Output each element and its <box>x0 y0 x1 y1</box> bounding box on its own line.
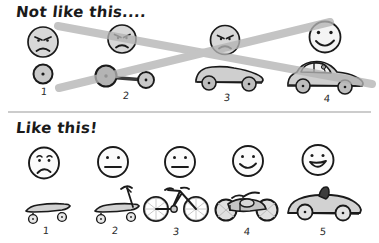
step-number-top-4: 4 <box>315 93 340 104</box>
mvp-illustration: Not like this.... Like this! <box>0 0 379 243</box>
angry-face-icon <box>28 27 58 57</box>
drawing-canvas <box>0 0 379 243</box>
vehicle-single-wheel <box>34 65 53 84</box>
neutral-face-icon <box>165 147 195 177</box>
step-number-top-3: 3 <box>215 92 240 103</box>
step-number-bottom-4: 4 <box>235 226 260 237</box>
step-number-bottom-2: 2 <box>103 225 128 236</box>
step-number-top-1: 1 <box>32 86 57 97</box>
step-number-top-2: 2 <box>114 90 139 101</box>
vehicle-skateboard <box>26 204 70 224</box>
smiling-face-icon <box>233 146 263 176</box>
vehicle-scooter <box>95 186 139 223</box>
neutral-face-icon <box>98 147 128 177</box>
vehicle-car-chassis <box>196 67 263 91</box>
step-number-bottom-5: 5 <box>311 226 336 237</box>
vehicle-bicycle <box>144 188 208 221</box>
grinning-face-icon <box>303 145 334 175</box>
vehicle-convertible-car <box>288 187 361 221</box>
step-number-bottom-1: 1 <box>34 225 59 236</box>
step-number-bottom-3: 3 <box>164 226 189 237</box>
vehicle-motorcycle <box>216 193 278 221</box>
sad-face-icon <box>29 148 59 179</box>
